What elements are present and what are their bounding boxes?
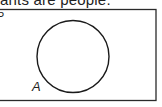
venn-diagram: P A	[0, 0, 162, 107]
universal-set-rectangle	[0, 10, 156, 101]
set-a-circle	[37, 21, 109, 93]
set-a-label: A	[31, 79, 41, 94]
universal-set-label: P	[0, 11, 4, 22]
